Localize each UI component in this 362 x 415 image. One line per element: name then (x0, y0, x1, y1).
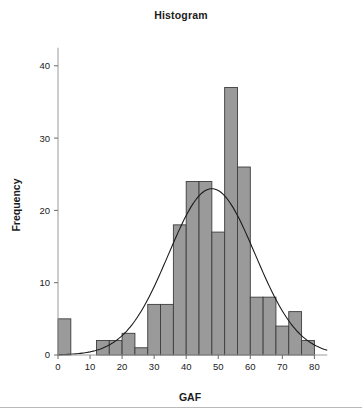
x-axis-tick-label: 10 (85, 361, 96, 372)
histogram-bar (186, 181, 199, 355)
x-axis-tick-label: 60 (245, 361, 256, 372)
x-axis-tick-label: 20 (117, 361, 128, 372)
histogram-plot: 010203040 01020304050607080 GAF Frequenc… (0, 0, 362, 415)
x-axis-tick-label: 0 (55, 361, 60, 372)
x-axis-title: GAF (179, 391, 202, 403)
y-axis-tick-label: 40 (39, 60, 50, 71)
histogram-bar (250, 297, 263, 355)
y-axis-tick-label: 30 (39, 133, 50, 144)
x-axis-tick-label: 30 (149, 361, 160, 372)
histogram-bar (302, 341, 315, 355)
histogram-bar (276, 326, 289, 355)
y-axis-title: Frequency (10, 178, 22, 231)
y-axis-tick-label: 10 (39, 277, 50, 288)
bars-group (58, 87, 314, 355)
y-axis-tick-label: 20 (39, 205, 50, 216)
histogram-bar (237, 167, 250, 355)
x-axis-tick-label: 70 (277, 361, 288, 372)
x-axis: 01020304050607080 (55, 355, 327, 372)
histogram-bar (109, 341, 122, 355)
histogram-bar (122, 333, 135, 355)
histogram-figure: Histogram 010203040 01020304050607080 GA… (0, 0, 362, 415)
histogram-bar (212, 232, 225, 355)
histogram-bar (173, 225, 186, 355)
y-axis-tick-label: 0 (45, 349, 50, 360)
x-axis-tick-label: 80 (309, 361, 320, 372)
histogram-bar (199, 181, 212, 355)
histogram-bar (161, 304, 174, 355)
histogram-bar (148, 304, 161, 355)
x-axis-tick-label: 40 (181, 361, 192, 372)
x-axis-tick-label: 50 (213, 361, 224, 372)
histogram-bar (135, 348, 148, 355)
histogram-bar (263, 297, 276, 355)
histogram-bar (225, 87, 238, 355)
histogram-bar (58, 319, 71, 355)
y-axis: 010203040 (39, 48, 58, 361)
footer-divider (0, 407, 362, 408)
